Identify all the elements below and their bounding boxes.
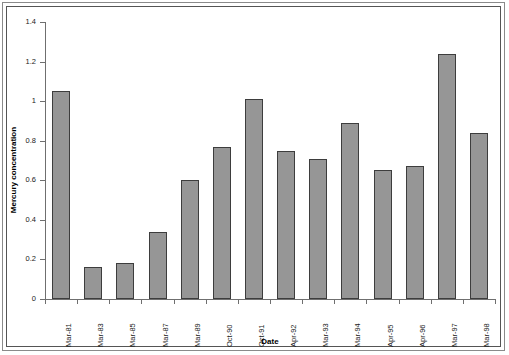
y-axis-tick: [40, 180, 45, 181]
x-axis-tick: [399, 300, 400, 304]
x-axis-tick: [366, 300, 367, 304]
bar: [116, 263, 134, 299]
y-axis-line: [45, 22, 46, 300]
x-axis-tick: [174, 300, 175, 304]
x-axis-tick: [334, 300, 335, 304]
y-axis-tick-label: 1: [0, 97, 36, 105]
x-axis-tick: [270, 300, 271, 304]
x-axis-tick: [463, 300, 464, 304]
y-axis-tick: [40, 62, 45, 63]
bar: [374, 170, 392, 299]
y-axis-tick-label: 0.4: [0, 216, 36, 224]
y-axis-tick-label: 0.2: [0, 255, 36, 263]
y-axis-tick: [40, 259, 45, 260]
y-axis-tick-label: 0.6: [0, 176, 36, 184]
bar: [84, 267, 102, 299]
y-axis-tick: [40, 220, 45, 221]
bar: [438, 54, 456, 299]
x-axis-tick: [302, 300, 303, 304]
y-axis-tick-label: 1.4: [0, 18, 36, 26]
y-axis-tick: [40, 141, 45, 142]
y-axis-tick: [40, 22, 45, 23]
x-axis-title: Date: [45, 337, 495, 346]
y-axis-tick: [40, 101, 45, 102]
bar: [52, 91, 70, 299]
bar: [213, 147, 231, 299]
chart-figure: Mercury concentration 00.20.40.60.811.21…: [0, 0, 509, 355]
y-axis-tick-label: 0.8: [0, 137, 36, 145]
x-axis-tick: [109, 300, 110, 304]
bar: [245, 99, 263, 299]
bar: [406, 166, 424, 299]
x-axis-tick: [238, 300, 239, 304]
x-axis-tick: [431, 300, 432, 304]
x-axis-tick: [206, 300, 207, 304]
bar: [277, 151, 295, 299]
y-axis-tick-label: 1.2: [0, 58, 36, 66]
x-axis-tick: [495, 300, 496, 304]
bar: [341, 123, 359, 299]
bar: [149, 232, 167, 299]
bar: [181, 180, 199, 299]
y-axis-tick-label: 0: [0, 295, 36, 303]
x-axis-tick: [77, 300, 78, 304]
bar: [470, 133, 488, 299]
bar: [309, 159, 327, 299]
x-axis-tick: [45, 300, 46, 304]
x-axis-tick: [141, 300, 142, 304]
